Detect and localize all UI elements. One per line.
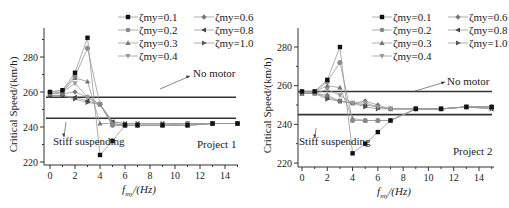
arrowhead-icon [441, 82, 445, 85]
x-tick-label: 12 [449, 172, 459, 183]
legend-item: ζmy=0.3 [118, 37, 178, 50]
series-line [302, 93, 492, 109]
legend-marker-icon [455, 14, 460, 20]
legend-label: ζmy=0.1 [393, 11, 432, 24]
data-point [185, 123, 189, 127]
legend-marker-icon [125, 54, 130, 59]
legend: ζmy=0.1ζmy=0.2ζmy=0.3ζmy=0.4ζmy=0.6ζmy=0… [118, 11, 254, 63]
legend-marker-icon [201, 27, 206, 32]
y-tick-label: 260 [277, 80, 292, 91]
legend-label: ζmy=0.6 [469, 11, 508, 24]
data-point [135, 123, 139, 127]
x-tick-label: 0 [300, 172, 305, 183]
legend-marker-icon [456, 40, 461, 45]
chart-panel-2: 22024026028002468101214Critical Speed/(k… [261, 11, 508, 200]
legend-item: ζmy=0.6 [194, 11, 254, 24]
x-tick-label: 4 [98, 170, 103, 181]
legend-marker-icon [380, 15, 384, 19]
data-point [489, 105, 493, 109]
data-point [325, 78, 329, 82]
data-point [312, 89, 316, 93]
legend-marker-icon [126, 28, 131, 33]
x-tick-label: 10 [170, 170, 180, 181]
data-point [210, 121, 214, 125]
legend-item: ζmy=0.1 [372, 11, 432, 24]
data-point [376, 130, 380, 134]
x-tick-label: 0 [48, 170, 53, 181]
data-point [48, 90, 52, 94]
series-my0.4 [47, 81, 240, 128]
legend-marker-icon [455, 27, 460, 32]
arrowhead-icon [186, 76, 190, 79]
series-line [302, 93, 492, 109]
legend-item: ζmy=0.2 [372, 24, 432, 37]
chart-panel-1: 22024026028002468101214Critical Speed/(k… [7, 11, 254, 198]
x-axis-label: fmy/(Hz) [377, 185, 411, 200]
x-tick-label: 8 [401, 172, 406, 183]
x-axis-label: fmy/(Hz) [122, 183, 156, 198]
legend-label: ζmy=0.3 [393, 37, 432, 50]
x-tick-label: 14 [220, 170, 230, 181]
data-point [388, 118, 392, 122]
stiff-suspending-label: Stiff suspending [299, 135, 371, 147]
legend-label: ζmy=0.2 [393, 24, 432, 37]
legend-label: ζmy=0.4 [139, 50, 178, 63]
legend-item: ζmy=0.8 [448, 24, 508, 37]
data-point [414, 107, 418, 111]
y-tick-label: 260 [23, 87, 38, 98]
no-motor-label: No motor [193, 67, 236, 79]
legend-label: ζmy=0.8 [469, 24, 508, 37]
legend-label: ζmy=0.1 [139, 11, 178, 24]
figure: 22024026028002468101214Critical Speed/(k… [0, 0, 509, 208]
data-point [160, 123, 164, 127]
x-tick-label: 2 [73, 170, 78, 181]
x-tick-label: 2 [325, 172, 330, 183]
y-tick-label: 220 [277, 158, 292, 169]
y-tick-label: 240 [23, 122, 38, 133]
y-tick-label: 280 [277, 42, 292, 53]
legend-item: ζmy=0.8 [194, 24, 254, 37]
x-tick-label: 8 [148, 170, 153, 181]
legend-item: ζmy=1.0 [194, 37, 254, 50]
series-line [302, 90, 492, 109]
data-point [60, 88, 64, 92]
legend-label: ζmy=0.2 [139, 24, 178, 37]
x-tick-label: 14 [474, 172, 484, 183]
legend-item: ζmy=0.4 [372, 50, 432, 63]
legend-item: ζmy=0.1 [118, 11, 178, 24]
data-point [85, 36, 89, 40]
y-axis-label: Critical Speed/(km/h) [7, 56, 20, 152]
legend-item: ζmy=0.4 [118, 50, 178, 63]
series-line [50, 96, 238, 124]
series-line [302, 93, 492, 109]
data-point [464, 105, 468, 109]
data-point [363, 118, 368, 123]
legend-marker-icon [380, 28, 385, 33]
x-tick-label: 6 [123, 170, 128, 181]
data-point [123, 123, 127, 127]
data-point [72, 89, 77, 95]
data-point [375, 118, 380, 123]
data-point [350, 118, 355, 123]
legend-label: ζmy=0.6 [215, 11, 254, 24]
legend: ζmy=0.1ζmy=0.2ζmy=0.3ζmy=0.4ζmy=0.6ζmy=0… [372, 11, 508, 63]
y-axis-label: Critical Speed/(km/h) [261, 57, 274, 153]
data-point [439, 107, 443, 111]
data-point [110, 123, 115, 128]
data-point [338, 45, 342, 49]
no-motor-label: No motor [447, 75, 490, 87]
data-point [350, 151, 354, 155]
legend-item: ζmy=1.0 [448, 37, 508, 50]
data-point [235, 121, 239, 125]
x-tick-label: 10 [423, 172, 433, 183]
data-point [98, 153, 102, 157]
x-tick-label: 12 [195, 170, 205, 181]
x-tick-label: 6 [375, 172, 380, 183]
data-point [337, 93, 342, 98]
legend-marker-icon [126, 15, 130, 19]
y-tick-label: 280 [23, 52, 38, 63]
x-tick-label: 4 [350, 172, 355, 183]
legend-label: ζmy=0.3 [139, 37, 178, 50]
legend-marker-icon [202, 40, 207, 45]
data-point [300, 89, 304, 93]
